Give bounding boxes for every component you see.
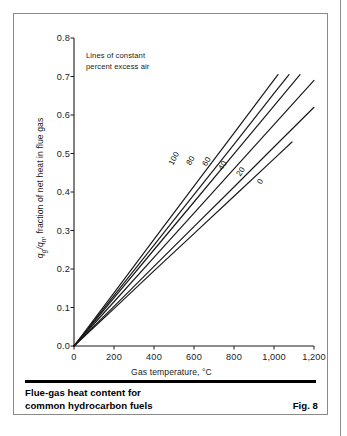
x-tick-label: 600 bbox=[186, 352, 202, 362]
caption-divider bbox=[25, 380, 316, 383]
y-axis-title: qg/qn, fraction of net heat in flue gas bbox=[35, 73, 47, 303]
figure-number-badge: Fig. 8 bbox=[293, 400, 318, 411]
figure-container: Lines of constant percent excess air 0.0… bbox=[13, 13, 328, 415]
y-axis-title-symbol: qg/qn bbox=[35, 239, 45, 259]
x-tick-label: 200 bbox=[106, 352, 122, 362]
x-tick-label: 800 bbox=[226, 352, 242, 362]
x-tick-labels: 02004006008001,0001,200 bbox=[14, 14, 329, 369]
figure-caption: Flue-gas heat content for common hydroca… bbox=[25, 386, 318, 416]
x-tick-label: 0 bbox=[71, 352, 76, 362]
chart-plot-area: Lines of constant percent excess air 0.0… bbox=[14, 14, 329, 369]
x-tick-label: 400 bbox=[146, 352, 162, 362]
x-tick-label: 1,000 bbox=[262, 352, 286, 362]
caption-text: Flue-gas heat content for common hydroca… bbox=[25, 386, 153, 412]
x-axis-title: Gas temperature, °C bbox=[14, 367, 329, 377]
page-margin-rule bbox=[340, 0, 341, 436]
x-tick-label: 1,200 bbox=[302, 352, 326, 362]
y-axis-title-text: , fraction of net heat in flue gas bbox=[35, 118, 45, 239]
